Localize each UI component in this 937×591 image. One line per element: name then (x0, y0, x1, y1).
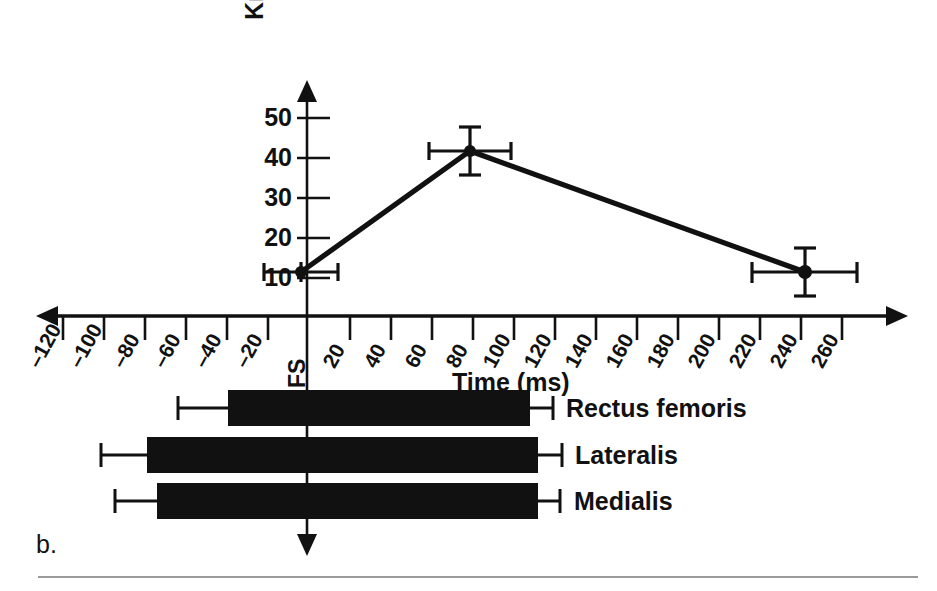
footer-divider (38, 576, 918, 578)
data-point-2 (429, 127, 511, 175)
y-axis-label: Knee angle (degrees) (242, 0, 267, 20)
chart-canvas (0, 0, 937, 591)
figure-panel-b: Knee angle (degrees) 50 40 30 20 10 –120… (0, 0, 937, 591)
emg-bar-label-medialis: Medialis (574, 489, 673, 514)
data-point-3 (752, 248, 857, 296)
y-tick-label-20: 20 (252, 225, 292, 250)
data-point-2-marker (464, 145, 476, 157)
x-axis-label: Time (ms) (452, 370, 570, 395)
fs-marker-label: FS (286, 359, 309, 388)
data-point-3-marker (798, 265, 812, 279)
emg-bar-label-lateralis: Lateralis (575, 443, 678, 468)
panel-letter: b. (36, 532, 57, 557)
emg-bar-label-rectus-femoris: Rectus femoris (566, 396, 747, 421)
emg-bar-medialis-rect (157, 483, 538, 519)
y-tick-label-30: 30 (252, 185, 292, 210)
y-tick-label-10: 10 (252, 265, 292, 290)
knee-angle-series (264, 127, 857, 296)
emg-bar-lateralis (101, 437, 562, 473)
x-axis-right-arrowhead (886, 306, 908, 326)
data-point-1-marker (295, 266, 307, 278)
knee-angle-line (301, 151, 805, 272)
emg-bars-group (101, 390, 562, 519)
y-axis-bottom-arrowhead (297, 534, 317, 556)
y-axis-top-arrowhead (297, 80, 317, 102)
emg-bar-medialis (115, 483, 560, 519)
y-tick-label-40: 40 (252, 145, 292, 170)
emg-bar-lateralis-rect (147, 437, 538, 473)
y-tick-label-50: 50 (252, 105, 292, 130)
